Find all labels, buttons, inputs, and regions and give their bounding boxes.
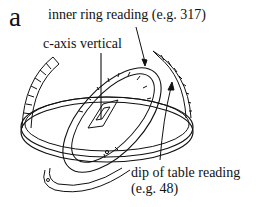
inner-tilted-ring [45, 51, 178, 189]
inner-ring-leader-arrow [136, 27, 147, 66]
ring-pivot-icon [105, 150, 108, 153]
universal-stage-drawing [0, 0, 271, 207]
